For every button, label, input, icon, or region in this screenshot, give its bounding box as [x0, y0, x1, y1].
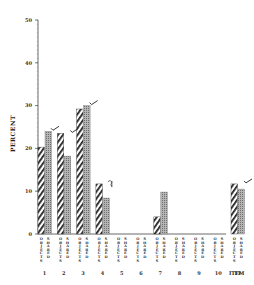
x-pair-label: D	[182, 255, 185, 259]
x-tick-label: 7	[159, 270, 163, 276]
bar-shared-item-3	[84, 106, 91, 234]
y-tick-label: 40	[25, 60, 32, 66]
x-pair-label: S	[79, 259, 82, 263]
x-tick-label: 9	[197, 270, 201, 276]
x-pair-label: D	[162, 255, 165, 259]
bar-shared-item-7	[161, 192, 168, 234]
x-tick-label: 4	[101, 270, 105, 276]
x-pair-label: S	[59, 259, 62, 263]
bar-shared-item-4	[103, 198, 110, 234]
x-pair-label: D	[143, 255, 146, 259]
bar-objects-item-1	[38, 147, 45, 234]
x-tick-label: 2	[62, 270, 66, 276]
handwritten-mark-icon	[108, 180, 112, 187]
bar-objects-item-4	[96, 184, 103, 234]
bar-shared-item-11	[238, 189, 245, 234]
bar-objects-item-7	[154, 217, 161, 234]
x-tick-label: 3	[81, 270, 85, 276]
x-pair-label: D	[201, 255, 204, 259]
x-tick-label: 8	[178, 270, 182, 276]
bar-shared-item-1	[45, 131, 52, 234]
x-pair-label: D	[124, 255, 127, 259]
x-pair-label: S	[136, 259, 139, 263]
y-tick-label: 10	[25, 188, 32, 194]
y-tick-label: 50	[25, 17, 32, 23]
chart-canvas: 01020304050 OBJECTSSHARED1OBJECTSSHARED2…	[0, 0, 254, 285]
y-axis-label: PERCENT	[9, 115, 25, 153]
check-mark-icon	[51, 126, 59, 130]
check-mark-icon	[90, 101, 98, 105]
x-pair-label: S	[194, 259, 197, 263]
y-tick-label: 30	[25, 102, 32, 108]
x-pair-label: D	[105, 255, 108, 259]
x-pair-label: S	[156, 259, 159, 263]
x-tick-label: 10	[215, 270, 222, 276]
x-tick-label: 6	[139, 270, 143, 276]
bar-shared-item-2	[64, 156, 71, 234]
x-pair-label: D	[47, 255, 50, 259]
x-labels: OBJECTSSHARED1OBJECTSSHARED2OBJECTSSHARE…	[39, 237, 243, 276]
x-pair-label: S	[117, 259, 120, 263]
x-tick-label: 1	[43, 270, 46, 276]
x-pair-label: D	[85, 255, 88, 259]
bars	[38, 101, 252, 234]
x-tick-label: 5	[120, 270, 124, 276]
x-pair-label: S	[175, 259, 178, 263]
bar-objects-item-3	[77, 109, 84, 234]
bar-objects-item-2	[57, 133, 64, 234]
bar-objects-item-11	[231, 184, 238, 234]
x-axis-title: ITEM	[229, 270, 244, 276]
x-pair-label: S	[98, 259, 101, 263]
axes: 01020304050	[25, 17, 226, 237]
y-tick-label: 0	[29, 231, 33, 237]
x-pair-label: D	[240, 255, 243, 259]
x-pair-label: S	[40, 259, 43, 263]
x-pair-label: D	[220, 255, 223, 259]
x-pair-label: S	[214, 259, 217, 263]
y-tick-label: 20	[25, 145, 32, 151]
bar-chart: 01020304050 OBJECTSSHARED1OBJECTSSHARED2…	[0, 0, 254, 285]
x-pair-label: S	[233, 259, 236, 263]
check-mark-icon	[244, 179, 252, 183]
x-pair-label: D	[66, 255, 69, 259]
